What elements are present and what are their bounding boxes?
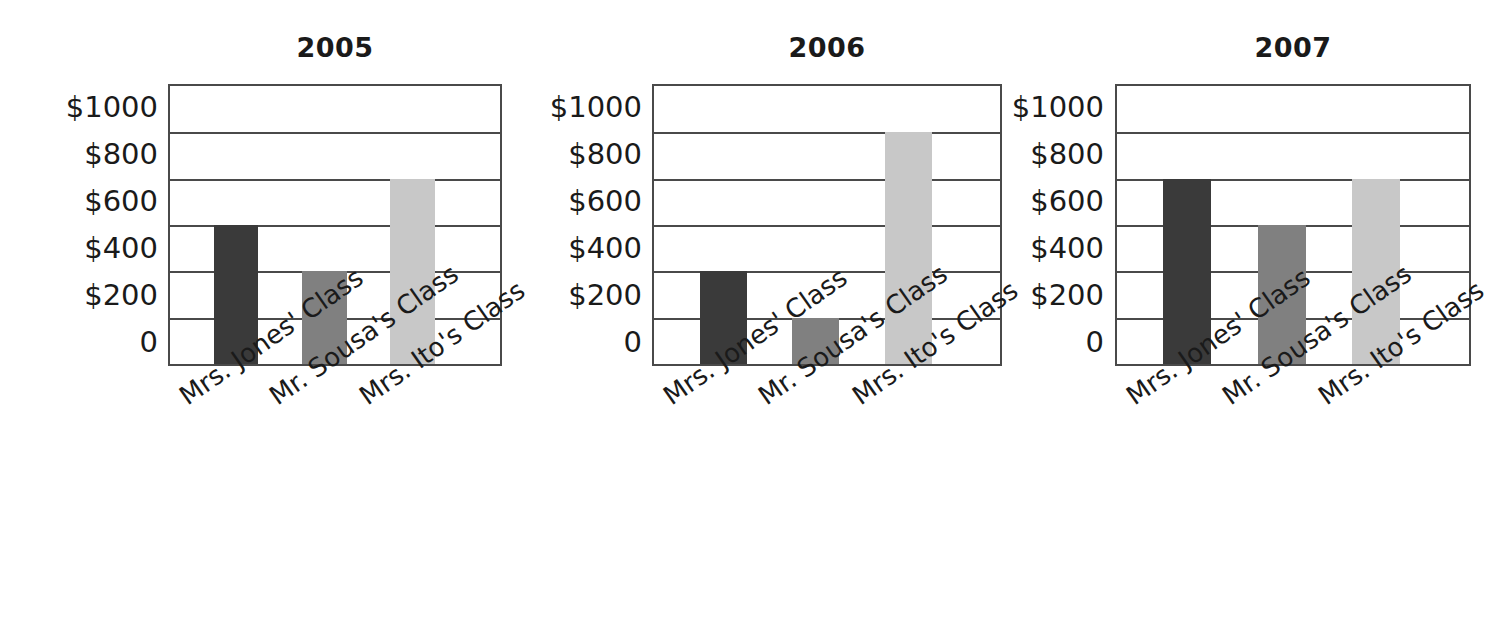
y-axis-tick: $600: [542, 178, 650, 225]
y-axis-tick: $600: [1004, 178, 1112, 225]
chart-panel-2006: 2006 $1000 $800 $600 $400 $200 0 Mrs. Jo…: [512, 0, 1002, 626]
category-labels: Mrs. Jones' Class Mr. Sousa's Class Mrs.…: [168, 366, 502, 596]
y-axis-tick: $200: [542, 272, 650, 319]
y-axis-tick: $1000: [58, 84, 166, 131]
y-axis-tick: $600: [58, 178, 166, 225]
y-axis-labels: $1000 $800 $600 $400 $200 0: [58, 84, 166, 366]
y-axis-tick: $800: [58, 131, 166, 178]
y-axis-tick: $1000: [1004, 84, 1112, 131]
y-axis-tick: $400: [1004, 225, 1112, 272]
bar: [885, 132, 932, 364]
y-axis-tick: 0: [58, 319, 166, 366]
y-axis-labels: $1000 $800 $600 $400 $200 0: [542, 84, 650, 366]
chart-panel-2007: 2007 $1000 $800 $600 $400 $200 0 Mrs. Jo…: [1002, 0, 1506, 626]
y-axis-tick: 0: [542, 319, 650, 366]
category-labels: Mrs. Jones' Class Mr. Sousa's Class Mrs.…: [652, 366, 1002, 596]
chart-title: 2007: [1115, 32, 1471, 63]
y-axis-tick: $400: [58, 225, 166, 272]
y-axis-tick: $800: [1004, 131, 1112, 178]
chart-title: 2005: [168, 32, 502, 63]
y-axis-labels: $1000 $800 $600 $400 $200 0: [1004, 84, 1112, 366]
category-labels: Mrs. Jones' Class Mr. Sousa's Class Mrs.…: [1115, 366, 1471, 596]
chart-panel-2005: 2005 $1000 $800 $600 $400 $200 0 Mrs. Jo…: [0, 0, 512, 626]
y-axis-tick: $1000: [542, 84, 650, 131]
y-axis-tick: 0: [1004, 319, 1112, 366]
y-axis-tick: $200: [58, 272, 166, 319]
y-axis-tick: $200: [1004, 272, 1112, 319]
chart-title: 2006: [652, 32, 1002, 63]
y-axis-tick: $800: [542, 131, 650, 178]
bar-chart-group: 2005 $1000 $800 $600 $400 $200 0 Mrs. Jo…: [0, 0, 1506, 626]
y-axis-tick: $400: [542, 225, 650, 272]
